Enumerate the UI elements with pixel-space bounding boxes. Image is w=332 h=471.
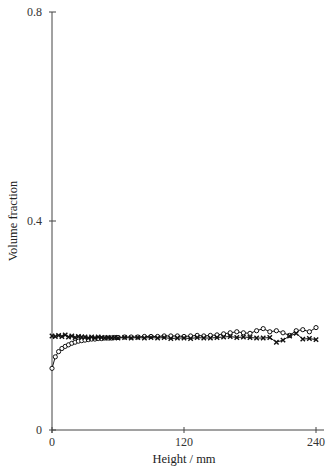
circle-marker bbox=[50, 366, 54, 370]
y-tick-label: 0.8 bbox=[27, 5, 42, 19]
volume-fraction-chart: 012024000.40.8 Height / mm Volume fracti… bbox=[0, 0, 332, 471]
x-tick-label: 120 bbox=[175, 435, 193, 449]
circle-marker bbox=[261, 327, 265, 331]
circle-marker bbox=[241, 331, 245, 335]
y-tick-label: 0.4 bbox=[27, 214, 42, 228]
circle-marker bbox=[255, 329, 259, 333]
series-crosses bbox=[50, 331, 318, 344]
x-tick-label: 0 bbox=[49, 435, 55, 449]
circle-marker bbox=[307, 330, 311, 334]
x-tick-label: 240 bbox=[307, 435, 325, 449]
series-line bbox=[52, 328, 316, 369]
y-axis-label: Volume fraction bbox=[6, 180, 20, 261]
x-axis-label: Height / mm bbox=[152, 452, 215, 466]
axes: 012024000.40.8 bbox=[27, 5, 325, 449]
series-layer bbox=[50, 325, 318, 370]
circle-marker bbox=[268, 330, 272, 334]
circle-marker bbox=[274, 329, 278, 333]
circle-marker bbox=[281, 331, 285, 335]
series-circles bbox=[50, 325, 318, 370]
circle-marker bbox=[301, 328, 305, 332]
circle-marker bbox=[314, 325, 318, 329]
y-tick-label: 0 bbox=[36, 423, 42, 437]
circle-marker bbox=[53, 355, 57, 359]
circle-marker bbox=[248, 331, 252, 335]
circle-marker bbox=[235, 330, 239, 334]
